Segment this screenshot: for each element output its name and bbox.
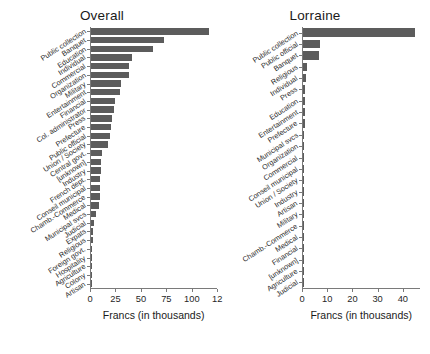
x-axis-tick-label: 75 — [161, 294, 171, 304]
bar — [91, 263, 92, 269]
bar — [91, 141, 108, 147]
bar — [91, 124, 111, 130]
y-axis-tick — [87, 162, 90, 163]
x-axis-tick — [115, 289, 116, 292]
x-axis-tick-label: 30 — [372, 294, 382, 304]
bar — [303, 28, 415, 36]
y-axis-tick — [87, 101, 90, 102]
bar — [91, 106, 114, 112]
bar — [303, 165, 304, 173]
bar — [303, 153, 304, 161]
x-axis-tick — [192, 289, 193, 292]
panel-title-overall: Overall — [22, 8, 182, 23]
y-axis-tick — [87, 231, 90, 232]
y-axis-tick — [299, 112, 302, 113]
y-axis-tick — [299, 44, 302, 45]
bar — [303, 51, 319, 59]
y-axis-tick — [87, 197, 90, 198]
bar — [91, 272, 92, 278]
y-axis-tick — [87, 84, 90, 85]
y-axis-tick — [87, 127, 90, 128]
bar — [303, 97, 305, 105]
bar — [91, 89, 120, 95]
bar — [303, 74, 306, 82]
bar — [91, 28, 209, 34]
x-axis-tick — [166, 289, 167, 292]
bar — [91, 193, 100, 199]
y-axis-tick — [299, 203, 302, 204]
y-axis-tick — [87, 223, 90, 224]
x-axis-line — [90, 288, 217, 289]
x-axis-tick-label: 0 — [87, 294, 92, 304]
y-axis-tick — [87, 275, 90, 276]
x-axis-tick — [352, 289, 353, 292]
bar — [91, 211, 96, 217]
bar — [303, 267, 304, 275]
bar — [91, 167, 101, 173]
bar — [91, 72, 129, 78]
bar — [303, 108, 305, 116]
bar — [91, 176, 100, 182]
x-axis-tick — [302, 289, 303, 292]
y-axis-tick — [87, 110, 90, 111]
x-axis-tick-label: 50 — [136, 294, 146, 304]
bar — [303, 187, 304, 195]
bar — [303, 233, 304, 241]
y-axis-tick — [299, 237, 302, 238]
bar — [91, 202, 99, 208]
bar — [91, 37, 164, 43]
bar — [91, 159, 101, 165]
bar — [91, 280, 92, 286]
y-axis-tick — [299, 67, 302, 68]
y-axis-tick — [299, 158, 302, 159]
bar — [91, 185, 100, 191]
y-axis-tick — [299, 260, 302, 261]
bar — [91, 246, 92, 252]
y-axis-tick — [87, 179, 90, 180]
y-axis-tick — [299, 33, 302, 34]
bar — [303, 63, 307, 71]
x-axis-title: Francs (in thousands) — [103, 309, 205, 321]
y-axis-tick — [87, 258, 90, 259]
x-axis-tick-label: 0 — [299, 294, 304, 304]
y-axis-tick — [299, 192, 302, 193]
bar — [303, 221, 304, 229]
y-axis-tick — [299, 89, 302, 90]
y-axis-tick — [87, 66, 90, 67]
y-axis-tick — [87, 240, 90, 241]
bar — [303, 142, 304, 150]
bar — [303, 119, 305, 127]
x-axis-tick-label: 40 — [398, 294, 408, 304]
bar — [303, 278, 304, 286]
bar — [303, 255, 304, 263]
y-axis-tick — [87, 171, 90, 172]
y-axis-tick — [87, 49, 90, 50]
bar — [91, 80, 121, 86]
y-axis-tick — [299, 226, 302, 227]
y-axis-tick — [87, 136, 90, 137]
panel-title-lorraine: Lorraine — [235, 8, 395, 23]
y-axis-tick — [299, 146, 302, 147]
x-axis-tick — [90, 289, 91, 292]
y-axis-tick — [299, 169, 302, 170]
y-axis-tick — [87, 118, 90, 119]
bar — [91, 46, 153, 52]
y-axis-tick — [299, 282, 302, 283]
bar — [91, 133, 110, 139]
x-axis-title: Francs (in thousands) — [310, 309, 412, 321]
y-axis-tick — [299, 214, 302, 215]
y-axis-tick — [299, 101, 302, 102]
x-axis-tick — [378, 289, 379, 292]
y-axis-tick — [299, 55, 302, 56]
y-axis-tick — [87, 57, 90, 58]
y-axis-tick — [87, 205, 90, 206]
bar — [91, 98, 115, 104]
y-axis-tick — [87, 153, 90, 154]
bar — [303, 176, 304, 184]
bar — [91, 63, 129, 69]
bar — [91, 54, 132, 60]
y-axis-tick — [299, 180, 302, 181]
y-axis-tick — [299, 135, 302, 136]
x-axis-tick-label: 25 — [110, 294, 120, 304]
bar — [303, 244, 304, 252]
